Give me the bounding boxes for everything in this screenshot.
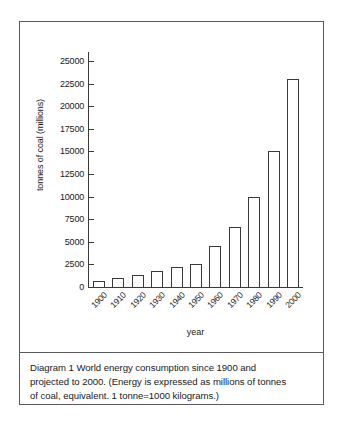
y-axis-tick-label: 7500 [65,214,84,224]
x-axis-tick-label: 1900 [89,290,109,310]
bar-1950 [190,264,202,288]
y-axis-tick-label: 17500 [60,124,84,134]
x-axis-tick-label: 2000 [283,290,303,310]
bar-1960 [209,246,221,287]
bar-1980 [248,197,260,287]
figure-caption: Diagram 1 World energy consumption since… [30,361,316,403]
bar-1900 [93,281,105,287]
bar-1930 [151,271,163,287]
x-axis-tick-label: 1970 [225,290,245,310]
x-axis-tick-label: 1990 [264,290,284,310]
y-axis-tick [89,197,94,198]
x-axis-tick-label: 1960 [206,290,226,310]
caption-line-1: Diagram 1 World energy consumption since… [30,361,316,375]
bar-2000 [287,79,299,287]
y-axis-tick [89,174,94,175]
y-axis-tick [89,151,94,152]
y-axis-tick-labels: 0250050007500100001250015000175002000022… [30,52,84,284]
caption-divider [20,352,323,353]
x-axis-label: year [88,327,303,337]
y-axis-tick [89,287,94,288]
x-axis-tick-labels: 1900191019201930194019501960197019801990… [88,290,318,326]
bar-1920 [132,275,144,287]
y-axis-tick-label: 20000 [60,101,84,111]
y-axis-tick-label: 0 [79,282,84,292]
y-axis-tick [89,129,94,130]
bar-1990 [268,151,280,287]
x-axis-tick-label: 1930 [147,290,167,310]
bar-1970 [229,227,241,287]
y-axis-tick-label: 12500 [60,169,84,179]
bar-chart: tonnes of coal (millions) 02500500075001… [20,22,323,342]
x-axis-tick-label: 1980 [244,290,264,310]
y-axis-tick [89,84,94,85]
bar-1940 [171,267,183,287]
y-axis-tick-label: 15000 [60,146,84,156]
y-axis-tick-label: 22500 [60,79,84,89]
bar-1910 [112,278,124,287]
y-axis-tick-label: 10000 [60,192,84,202]
y-axis-tick [89,106,94,107]
x-axis-tick-label: 1950 [186,290,206,310]
caption-line-2: projected to 2000. (Energy is expressed … [30,375,316,389]
x-axis-tick-label: 1940 [167,290,187,310]
y-axis-tick-label: 25000 [60,56,84,66]
x-axis-tick-label: 1910 [108,290,128,310]
x-axis-tick-label: 1920 [128,290,148,310]
y-axis-tick-label: 5000 [65,237,84,247]
x-axis-line [88,287,303,288]
bar-series [89,52,303,287]
y-axis-tick [89,219,94,220]
y-axis-tick [89,264,94,265]
plot-area [88,52,303,288]
diagram-figure: tonnes of coal (millions) 02500500075001… [19,21,324,405]
y-axis-tick [89,61,94,62]
y-axis-tick [89,242,94,243]
caption-line-3: of coal, equivalent. 1 tonne=1000 kilogr… [30,389,316,403]
y-axis-tick-label: 2500 [65,259,84,269]
